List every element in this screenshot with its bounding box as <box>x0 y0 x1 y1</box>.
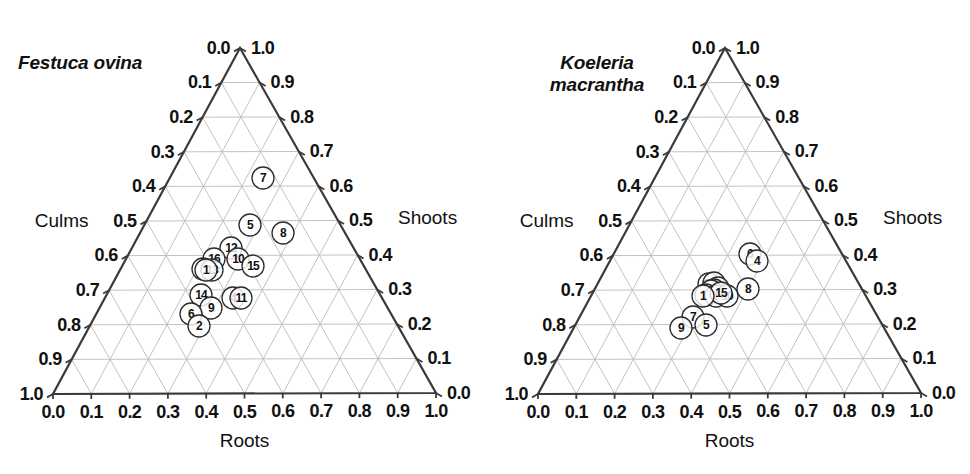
grid-line-culms <box>557 359 577 394</box>
tick-label-shoots: 0.4 <box>369 245 393 265</box>
grid-line-shoots <box>557 359 902 360</box>
tick-label-shoots: 0.4 <box>854 245 878 265</box>
grid-line-roots <box>168 152 299 394</box>
tick-label-shoots: 0.0 <box>447 383 471 403</box>
tick-label-culms: 0.4 <box>132 176 156 196</box>
data-point-label: 15 <box>247 259 260 273</box>
grid-line-culms <box>72 359 92 394</box>
tick-label-culms: 0.1 <box>188 72 212 92</box>
ternary-plot-koeleria: 0.00.10.20.30.40.50.60.70.80.91.00.00.10… <box>485 0 970 474</box>
tick-label-roots: 0.1 <box>80 402 104 422</box>
tick-label-shoots: 0.6 <box>329 176 353 196</box>
tick-label-roots: 0.5 <box>718 402 742 422</box>
data-point-label: 15 <box>715 286 728 300</box>
tick-label-culms: 0.4 <box>617 176 641 196</box>
tick-label-roots: 0.8 <box>348 401 372 421</box>
tick-label-shoots: 0.1 <box>912 348 936 368</box>
tick-label-roots: 0.9 <box>386 401 410 421</box>
tick-label-culms: 0.0 <box>207 38 231 58</box>
tick-label-shoots: 0.7 <box>795 141 819 161</box>
tick-label-culms: 1.0 <box>20 384 44 404</box>
data-point: 8 <box>272 222 294 244</box>
tick-label-shoots: 0.2 <box>408 314 432 334</box>
tick-label-shoots: 0.8 <box>775 107 799 127</box>
panel-koeleria-macrantha: Koeleria macrantha 0.00.10.20.30.40.50.6… <box>485 0 970 474</box>
axis-name-shoots: Shoots <box>883 207 942 228</box>
data-point: 4 <box>746 250 768 272</box>
tick-label-roots: 0.6 <box>271 401 295 421</box>
tick-label-roots: 0.3 <box>156 402 180 422</box>
tick-label-shoots: 0.5 <box>349 210 373 230</box>
tick-label-roots: 0.8 <box>833 401 857 421</box>
tick-label-culms: 0.8 <box>57 315 81 335</box>
tick-label-culms: 0.3 <box>636 142 660 162</box>
tick-label-culms: 0.2 <box>654 107 678 127</box>
tick-label-roots: 0.1 <box>565 402 589 422</box>
tick-label-roots: 1.0 <box>909 401 933 421</box>
grid-line-roots <box>398 359 417 394</box>
tick-label-shoots: 0.8 <box>290 107 314 127</box>
grid-lines <box>72 83 417 394</box>
data-point: 2 <box>188 315 210 337</box>
tick-label-shoots: 0.1 <box>427 348 451 368</box>
tick-label-culms: 0.6 <box>95 245 119 265</box>
tick-label-roots: 0.6 <box>756 401 780 421</box>
data-point: 1 <box>195 259 217 281</box>
tick-label-roots: 0.3 <box>641 402 665 422</box>
tick-label-shoots: 1.0 <box>251 38 275 58</box>
grid-line-roots <box>576 83 744 394</box>
tick-label-culms: 0.2 <box>169 107 193 127</box>
tick-label-culms: 0.3 <box>151 142 175 162</box>
grid-line-shoots <box>632 221 824 222</box>
data-point: 8 <box>737 278 759 300</box>
tick-label-shoots: 0.9 <box>271 72 295 92</box>
tick-label-roots: 0.0 <box>41 402 65 422</box>
panel-festuca-ovina: Festuca ovina 0.00.10.20.30.40.50.60.70.… <box>0 0 485 474</box>
tick-label-roots: 0.5 <box>233 402 257 422</box>
tick-mark-shoots <box>921 393 927 397</box>
data-point: 15 <box>242 255 264 277</box>
axis-name-roots: Roots <box>220 430 270 451</box>
tick-label-culms: 0.5 <box>113 211 137 231</box>
tick-label-shoots: 0.9 <box>756 72 780 92</box>
tick-label-shoots: 0.3 <box>873 279 897 299</box>
tick-label-culms: 0.7 <box>561 280 585 300</box>
tick-label-shoots: 1.0 <box>736 38 760 58</box>
axis-name-culms: Culms <box>35 210 89 231</box>
axis-name-roots: Roots <box>705 430 755 451</box>
grid-line-culms <box>706 83 882 394</box>
grid-line-shoots <box>613 255 843 256</box>
grid-lines <box>557 83 902 394</box>
tick-label-shoots: 0.5 <box>834 210 858 230</box>
tick-label-roots: 0.4 <box>680 402 704 422</box>
tick-mark-culms <box>532 394 538 397</box>
tick-label-roots: 0.7 <box>309 401 333 421</box>
tick-label-shoots: 0.2 <box>893 314 917 334</box>
axis-name-shoots: Shoots <box>398 207 457 228</box>
ternary-plot-festuca: 0.00.10.20.30.40.50.60.70.80.91.00.00.10… <box>0 0 485 474</box>
data-point: 9 <box>670 317 692 339</box>
tick-label-roots: 0.9 <box>871 401 895 421</box>
axis-name-culms: Culms <box>520 210 574 231</box>
data-point: 5 <box>239 214 261 236</box>
grid-line-roots <box>883 359 902 394</box>
tick-label-roots: 0.7 <box>794 401 818 421</box>
tick-label-culms: 0.1 <box>673 72 697 92</box>
tick-label-culms: 0.9 <box>523 349 547 369</box>
tick-label-shoots: 0.6 <box>814 176 838 196</box>
tick-marks <box>532 48 927 399</box>
tick-label-roots: 0.4 <box>195 402 219 422</box>
tick-label-roots: 0.2 <box>603 402 627 422</box>
tick-label-culms: 0.0 <box>692 38 716 58</box>
tick-label-roots: 0.0 <box>526 402 550 422</box>
ternary-figure: Festuca ovina 0.00.10.20.30.40.50.60.70.… <box>0 0 970 474</box>
data-point: 5 <box>695 314 717 336</box>
grid-line-culms <box>221 83 397 394</box>
data-point-label: 11 <box>235 291 247 305</box>
tick-label-shoots: 0.3 <box>388 279 412 299</box>
tick-label-culms: 0.5 <box>598 211 622 231</box>
data-point: 1 <box>692 285 714 307</box>
tick-label-culms: 0.8 <box>542 315 566 335</box>
data-point: 7 <box>252 167 274 189</box>
data-point: 11 <box>230 287 252 309</box>
